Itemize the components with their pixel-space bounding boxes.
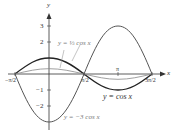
y-tick-2: 2 <box>40 39 44 46</box>
y-axis-arrow-icon <box>47 13 52 19</box>
label-third-cos: y = ⅓ cos x <box>58 40 91 47</box>
x-tick-pi-2: π/2 <box>81 77 89 83</box>
leader-third <box>60 50 64 68</box>
x-tick-neg-pi-2: −π/2 <box>5 77 16 83</box>
x-axis-label: x <box>167 70 170 77</box>
x-tick-pi: π <box>116 66 119 72</box>
y-tick-neg2: −2 <box>36 103 43 110</box>
label-cos: y = cos x <box>103 93 132 101</box>
y-tick-3: 3 <box>40 23 44 30</box>
label-neg3-cos: y = −3 cos x <box>64 114 100 121</box>
leader-third-2 <box>72 45 80 61</box>
x-axis-arrow-icon <box>160 72 166 77</box>
x-tick-3pi-2: 3π/2 <box>145 77 156 83</box>
y-axis-label: y <box>47 2 50 9</box>
y-tick-neg1: −1 <box>36 87 43 94</box>
